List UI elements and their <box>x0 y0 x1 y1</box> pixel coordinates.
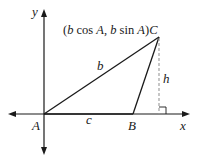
side-a <box>133 37 159 114</box>
triangle-diagram: y x A B b c h (b cos A, b sin A)C <box>0 0 197 160</box>
side-c-label: c <box>86 112 92 127</box>
x-axis-left-arrow-icon <box>8 111 16 117</box>
x-axis-right-arrow-icon <box>182 111 190 117</box>
vertex-a-label: A <box>31 118 40 133</box>
x-axis-label: x <box>179 118 186 133</box>
y-axis-down-arrow-icon <box>41 147 47 155</box>
height-label: h <box>163 71 170 86</box>
right-angle-marker-icon <box>159 107 166 114</box>
y-axis <box>41 9 47 155</box>
side-b <box>44 37 159 114</box>
vertex-c-label: C <box>149 23 158 37</box>
vertex-c-coords-label: (b cos A, b sin A)C <box>63 23 158 37</box>
y-axis-label: y <box>30 4 38 19</box>
y-axis-up-arrow-icon <box>41 9 47 17</box>
diagram-canvas: y x A B b c h (b cos A, b sin A)C <box>0 0 197 160</box>
side-b-label: b <box>97 58 104 73</box>
vertex-b-label: B <box>128 118 136 133</box>
